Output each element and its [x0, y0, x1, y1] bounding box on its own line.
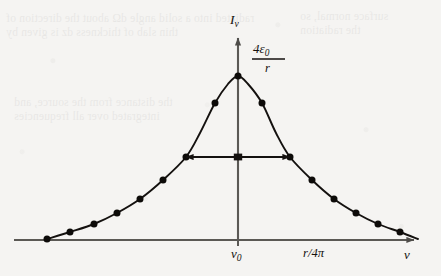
data-point-marker — [353, 210, 360, 217]
data-point-marker — [212, 100, 219, 107]
data-point-marker — [91, 221, 98, 228]
data-point-marker — [375, 221, 382, 228]
fwhm-center-block — [234, 154, 242, 161]
lineshape-chart: Iν 4ε0 r ν0 r/4π ν — [0, 0, 441, 276]
fwhm-indicator — [186, 154, 290, 161]
x-tick-label-nu0: ν0 — [231, 246, 242, 263]
figure-root: radiated into a solid angle dΩ about the… — [0, 0, 441, 276]
data-point-marker — [137, 196, 144, 203]
fwhm-label: r/4π — [303, 246, 325, 260]
data-point-marker — [397, 229, 404, 236]
data-point-marker — [235, 73, 242, 80]
data-point-marker — [67, 229, 74, 236]
svg-text:4ε0: 4ε0 — [253, 41, 270, 58]
data-point-marker — [309, 177, 316, 184]
y-axis-label: Iν — [229, 12, 240, 29]
data-point-marker — [114, 210, 121, 217]
data-point-marker — [331, 196, 338, 203]
x-axis-label: ν — [404, 247, 410, 262]
data-point-marker — [160, 177, 167, 184]
data-point-marker — [44, 236, 51, 243]
peak-value-denominator: r — [265, 61, 270, 75]
peak-value-annotation: 4ε0 r — [252, 41, 285, 75]
data-point-marker — [259, 100, 266, 107]
